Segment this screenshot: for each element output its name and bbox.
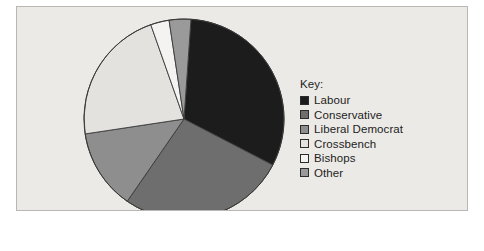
legend-item-label: Other <box>314 166 343 181</box>
legend-item: Labour <box>300 93 450 108</box>
legend-item: Crossbench <box>300 137 450 152</box>
legend-item-label: Conservative <box>314 108 382 123</box>
legend-item-label: Labour <box>314 93 350 108</box>
legend-item: Bishops <box>300 151 450 166</box>
legend-item: Liberal Democrat <box>300 122 450 137</box>
legend-title: Key: <box>300 77 450 91</box>
legend-item-label: Bishops <box>314 151 356 166</box>
chart-legend: Key: LabourConservativeLiberal DemocratC… <box>300 77 450 180</box>
legend-rows: LabourConservativeLiberal DemocratCrossb… <box>300 93 450 180</box>
legend-swatch-icon <box>300 139 309 148</box>
legend-item-label: Crossbench <box>314 137 376 152</box>
legend-item-label: Liberal Democrat <box>314 122 403 137</box>
legend-swatch-icon <box>300 154 309 163</box>
legend-swatch-icon <box>300 125 309 134</box>
legend-item: Other <box>300 166 450 181</box>
legend-swatch-icon <box>300 168 309 177</box>
legend-swatch-icon <box>300 110 309 119</box>
legend-swatch-icon <box>300 96 309 105</box>
chart-figure: Key: LabourConservativeLiberal DemocratC… <box>16 6 468 211</box>
legend-item: Conservative <box>300 108 450 123</box>
